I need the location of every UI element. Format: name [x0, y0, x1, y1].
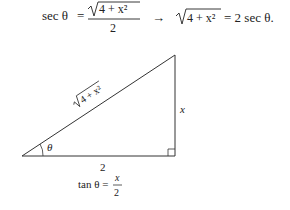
numerator-radicand: 4 + x² — [99, 2, 128, 16]
caption-numerator: x — [114, 172, 120, 183]
tan-theta-lhs: tan θ = — [78, 178, 108, 190]
right-triangle: θ x 2 4 + x² — [22, 55, 185, 173]
adjacent-label: 2 — [100, 161, 106, 173]
equals-sign: = — [77, 8, 84, 23]
denominator: 2 — [110, 21, 116, 35]
angle-arc — [40, 144, 43, 156]
arrow: → — [152, 10, 165, 25]
caption-denominator: 2 — [114, 187, 119, 198]
tangent-caption: tan θ = x 2 — [78, 172, 122, 198]
figure: sec θ = 4 + x² 2 → 4 + x² = 2 sec θ. θ x… — [0, 0, 290, 210]
triangle-sides — [22, 55, 175, 156]
opposite-label: x — [179, 103, 185, 115]
angle-theta-label: θ — [47, 141, 53, 153]
hypotenuse-label: 4 + x² — [70, 81, 105, 110]
sec-theta-lhs: sec θ — [42, 8, 68, 23]
secant-equation: sec θ = 4 + x² 2 → 4 + x² = 2 sec θ. — [42, 2, 274, 35]
rhs-radicand: 4 + x² — [187, 11, 216, 25]
rhs-expression: = 2 sec θ. — [224, 10, 274, 25]
right-angle-marker — [168, 149, 175, 156]
